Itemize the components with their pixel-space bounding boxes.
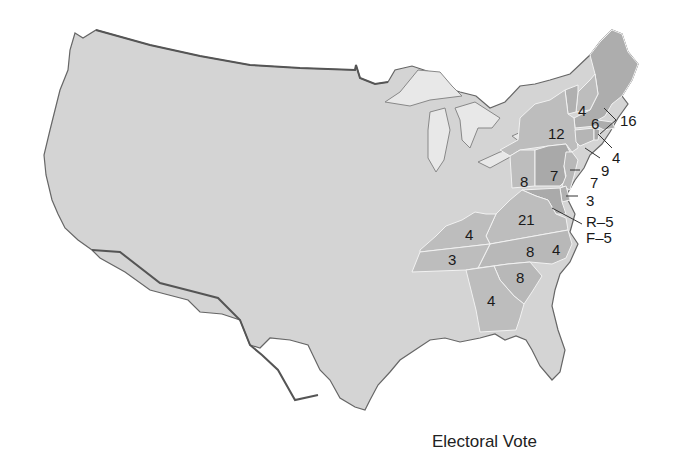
label-ga: 4: [487, 293, 495, 308]
label-tn: 3: [448, 252, 456, 267]
map-caption: Electoral Vote: [432, 432, 537, 452]
label-ny: 12: [548, 126, 565, 141]
label-nc-east: 4: [552, 242, 560, 257]
label-nc: 8: [526, 244, 534, 259]
label-ma: 16: [620, 113, 637, 128]
label-ct: 9: [601, 163, 609, 178]
label-nj: 7: [590, 175, 598, 190]
label-va: 21: [518, 212, 535, 227]
label-de: 3: [586, 193, 594, 208]
label-nh: 6: [591, 116, 599, 131]
label-ri: 4: [612, 150, 620, 165]
label-pa-west: 8: [520, 174, 528, 189]
label-sc: 8: [516, 270, 524, 285]
label-md-f: F–5: [586, 230, 612, 245]
label-vt: 4: [578, 103, 586, 118]
label-md-r: R–5: [586, 214, 614, 229]
label-pa-east: 7: [550, 168, 558, 183]
us-map: [0, 0, 679, 461]
label-ky: 4: [465, 227, 473, 242]
